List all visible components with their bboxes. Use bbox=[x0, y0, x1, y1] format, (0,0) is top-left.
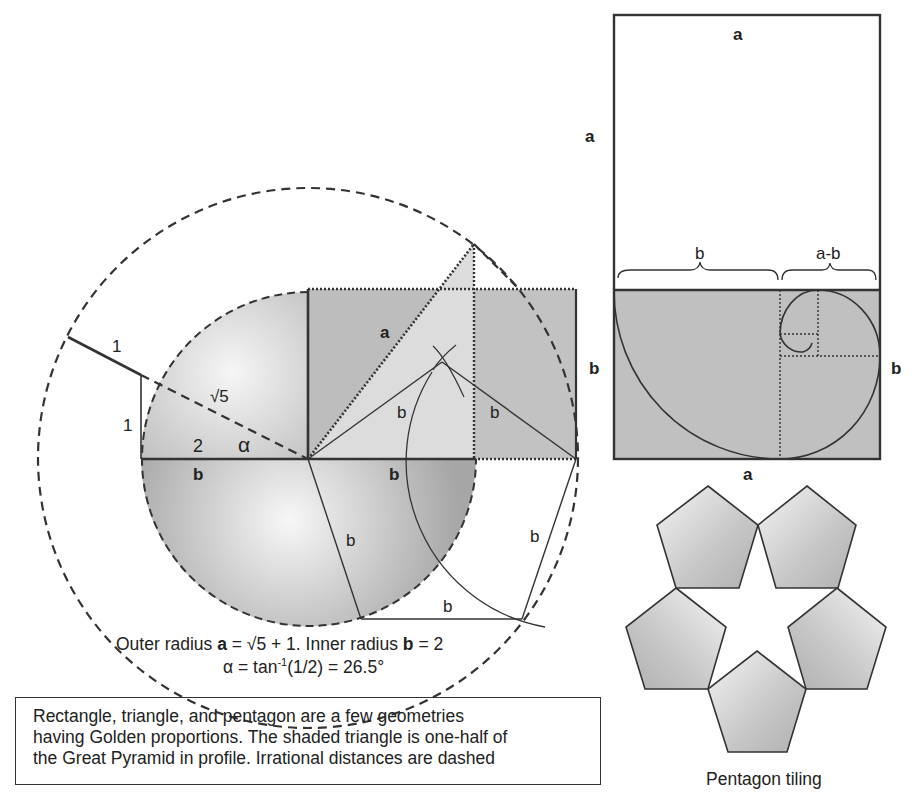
pentagon-bottom bbox=[708, 651, 806, 752]
caption-line: Rectangle, triangle, and pentagon are a … bbox=[33, 706, 600, 727]
label-b-rect-side: b bbox=[589, 359, 599, 378]
label-one-top: 1 bbox=[112, 337, 121, 356]
caption-line: the Great Pyramid in profile. Irrational… bbox=[33, 748, 600, 769]
label-brace-a-minus-b: a-b bbox=[816, 244, 841, 263]
pentagon-tiling-label: Pentagon tiling bbox=[706, 769, 822, 790]
label-b-triangle-left: b bbox=[397, 403, 406, 422]
brace-b bbox=[618, 262, 778, 280]
label-a-top: a bbox=[733, 25, 743, 44]
label-brace-b: b bbox=[695, 244, 704, 263]
brace-a-minus-b bbox=[782, 263, 876, 280]
label-sqrt5: √5 bbox=[210, 387, 229, 406]
label-b-lower-left: b bbox=[346, 531, 355, 550]
caption-line: having Golden proportions. The shaded tr… bbox=[33, 727, 600, 748]
label-b-lower-right: b bbox=[530, 527, 539, 546]
label-b-triangle-right: b bbox=[490, 403, 499, 422]
label-alpha: α bbox=[238, 433, 250, 456]
rectangle-right-square bbox=[474, 289, 576, 459]
label-b-lower-bottom: b bbox=[443, 597, 452, 616]
label-one-side: 1 bbox=[123, 416, 132, 435]
label-a-bottom: a bbox=[743, 465, 753, 484]
label-a-hypotenuse: a bbox=[380, 323, 390, 342]
label-b-right: b bbox=[891, 359, 901, 378]
label-b-left: b bbox=[193, 465, 203, 484]
pentagon-top-left bbox=[657, 486, 758, 588]
label-b-right: b bbox=[389, 465, 399, 484]
pentagon-middle-right bbox=[788, 588, 886, 689]
formula-alpha: α = tan-1(1/2) = 26.5° bbox=[223, 656, 384, 678]
label-two: 2 bbox=[193, 436, 203, 456]
caption-box: Rectangle, triangle, and pentagon are a … bbox=[15, 697, 601, 785]
formula-radii: Outer radius a = √5 + 1. Inner radius b … bbox=[116, 634, 443, 655]
inner-circle-lower-half bbox=[141, 459, 476, 627]
pentagon-top-right bbox=[758, 486, 856, 588]
pentagon-middle-left bbox=[626, 588, 726, 689]
pentagon-tiling bbox=[626, 486, 886, 752]
golden-geometry-diagram: 1 1 √5 2 α b b a b b b b b b a a b a-b b… bbox=[0, 0, 920, 801]
label-a-left: a bbox=[585, 127, 595, 146]
golden-rectangle bbox=[614, 15, 880, 459]
inner-circle-upper-left bbox=[141, 292, 308, 459]
